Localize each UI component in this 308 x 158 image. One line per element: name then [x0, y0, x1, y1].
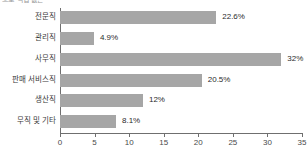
bar-value-label: 4.9% [100, 31, 118, 44]
bar-value-label: 22.6% [222, 10, 245, 23]
x-axis-tick-label: 25 [228, 138, 237, 147]
category-label: 관리직 [35, 31, 56, 45]
bar [60, 74, 202, 87]
x-axis-tick-mark [129, 134, 130, 137]
chart-title: 으로 직업 없는 [2, 0, 44, 3]
x-axis-tick-mark [233, 134, 234, 137]
bar-row: 무직 및 기타8.1% [60, 112, 302, 133]
x-axis-tick-label: 30 [263, 138, 272, 147]
x-axis-tick-label: 20 [194, 138, 203, 147]
category-label: 사무직 [35, 52, 56, 66]
x-axis-tick-mark [267, 134, 268, 137]
bar [60, 94, 143, 107]
plot-area: 전문직22.6%관리직4.9%사무직32%판매 서비스직20.5%생산직12%무… [60, 8, 302, 133]
x-axis-tick-mark [95, 134, 96, 137]
x-axis-tick-label: 5 [92, 138, 96, 147]
bar-row: 전문직22.6% [60, 8, 302, 29]
bar-chart: 으로 직업 없는 전문직22.6%관리직4.9%사무직32%판매 서비스직20.… [0, 0, 308, 158]
bar-row: 생산직12% [60, 91, 302, 112]
bar-value-label: 20.5% [208, 73, 231, 86]
category-label: 무직 및 기타 [17, 114, 56, 128]
x-axis-tick-label: 0 [58, 138, 62, 147]
bar-value-label: 32% [287, 52, 303, 65]
x-axis-tick-label: 10 [125, 138, 134, 147]
category-label: 생산직 [35, 93, 56, 107]
x-axis-tick-label: 35 [298, 138, 307, 147]
bar-row: 관리직4.9% [60, 29, 302, 50]
x-axis-tick-label: 15 [159, 138, 168, 147]
bar-value-label: 12% [149, 93, 165, 106]
bar [60, 32, 94, 45]
bar-row: 판매 서비스직20.5% [60, 71, 302, 92]
x-axis-tick-mark [164, 134, 165, 137]
x-axis-tick-mark [198, 134, 199, 137]
x-axis-tick-mark [60, 134, 61, 137]
bar [60, 53, 281, 66]
x-axis-tick-mark [302, 134, 303, 137]
bar-row: 사무직32% [60, 50, 302, 71]
bar [60, 11, 216, 24]
bar [60, 115, 116, 128]
category-label: 판매 서비스직 [12, 73, 56, 87]
bar-value-label: 8.1% [122, 114, 140, 127]
category-label: 전문직 [35, 10, 56, 24]
